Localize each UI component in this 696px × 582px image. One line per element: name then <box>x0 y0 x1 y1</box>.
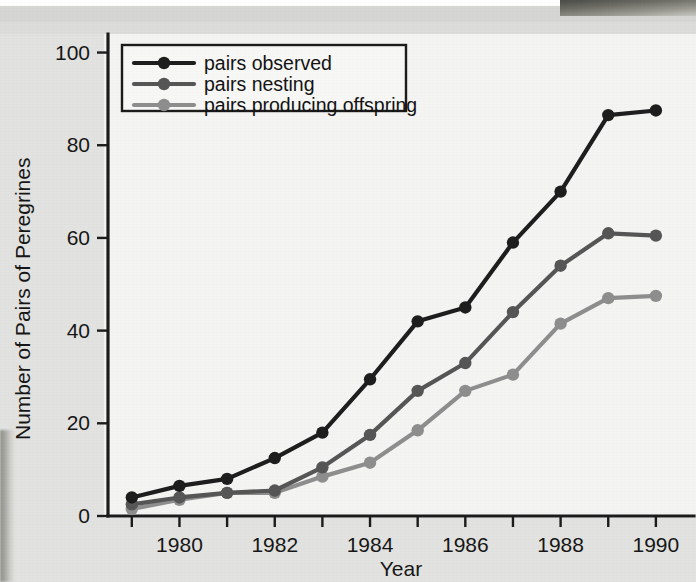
x-tick-label: 1982 <box>251 533 298 556</box>
data-point <box>173 491 185 503</box>
data-point <box>411 315 423 327</box>
legend-label: pairs observed <box>204 52 332 74</box>
x-axis-title: Year <box>380 557 422 580</box>
y-tick-label: 0 <box>78 504 90 527</box>
y-axis-ticks <box>97 53 108 516</box>
series-line <box>132 233 656 504</box>
data-point <box>411 385 423 397</box>
data-point <box>221 473 233 485</box>
x-tick-label: 1988 <box>537 533 584 556</box>
legend-label: pairs producing offspring <box>204 94 417 116</box>
y-tick-label: 60 <box>67 226 90 249</box>
data-point <box>316 461 328 473</box>
data-point <box>364 373 376 385</box>
data-point <box>411 424 423 436</box>
data-point <box>459 301 471 313</box>
data-point <box>650 290 662 302</box>
chart-legend: pairs observedpairs nestingpairs produci… <box>122 45 417 116</box>
x-tick-label: 1990 <box>633 533 680 556</box>
data-point <box>269 484 281 496</box>
data-point <box>602 109 614 121</box>
data-point <box>507 306 519 318</box>
data-point <box>650 104 662 116</box>
series-pairs-observed <box>126 104 662 503</box>
data-point <box>269 452 281 464</box>
y-tick-label: 100 <box>55 41 90 64</box>
y-tick-label: 80 <box>67 133 90 156</box>
data-point <box>602 227 614 239</box>
data-point <box>173 480 185 492</box>
legend-label: pairs nesting <box>204 73 315 95</box>
data-point <box>316 426 328 438</box>
y-tick-label: 20 <box>67 411 90 434</box>
x-tick-label: 1984 <box>347 533 394 556</box>
y-tick-label: 40 <box>67 319 90 342</box>
series-line <box>132 296 656 509</box>
x-tick-label: 1986 <box>442 533 489 556</box>
data-point <box>459 357 471 369</box>
data-point <box>650 229 662 241</box>
x-axis-ticks <box>132 516 656 527</box>
data-point <box>364 429 376 441</box>
series-pairs-nesting <box>126 227 662 511</box>
data-series-group <box>126 104 662 515</box>
data-point <box>459 385 471 397</box>
legend-swatch-marker <box>158 57 170 69</box>
data-point <box>507 236 519 248</box>
x-tick-label: 1980 <box>156 533 203 556</box>
legend-swatch-marker <box>158 99 170 111</box>
peregrine-population-line-chart: 020406080100 198019821984198619881990 pa… <box>0 0 696 582</box>
x-axis-tick-labels: 198019821984198619881990 <box>156 533 679 556</box>
data-point <box>602 292 614 304</box>
data-point <box>554 185 566 197</box>
data-point <box>126 491 138 503</box>
y-axis-title: Number of Pairs of Peregrines <box>11 158 34 440</box>
legend-swatch-marker <box>158 78 170 90</box>
data-point <box>507 368 519 380</box>
series-line <box>132 110 656 497</box>
data-point <box>221 487 233 499</box>
y-axis-tick-labels: 020406080100 <box>55 41 90 527</box>
data-point <box>364 457 376 469</box>
data-point <box>554 260 566 272</box>
data-point <box>554 317 566 329</box>
